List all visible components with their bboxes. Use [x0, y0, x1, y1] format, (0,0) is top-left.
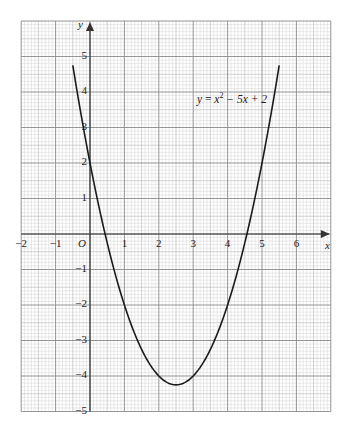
equation-rest: − 5x + 2: [223, 93, 267, 105]
x-tick-label: 4: [225, 237, 231, 249]
graph-chart: −2−1123456−5−4−3−2−112345 x y O y = x2 −…: [0, 0, 349, 435]
y-axis-label: y: [77, 18, 83, 30]
y-tick-label: 1: [82, 191, 88, 203]
equation-eq: =: [202, 93, 214, 105]
y-tick-label: −3: [75, 333, 87, 345]
x-tick-label: 2: [156, 237, 162, 249]
x-tick-label: 5: [259, 237, 265, 249]
y-tick-label: −5: [75, 404, 87, 416]
y-tick-label: 4: [82, 84, 88, 96]
y-tick-label: 5: [82, 49, 88, 61]
x-axis-label: x: [324, 239, 330, 251]
x-tick-label: −2: [15, 237, 27, 249]
x-tick-label: 6: [294, 237, 300, 249]
y-tick-label: 2: [82, 155, 88, 167]
y-tick-label: −4: [75, 368, 87, 380]
x-tick-label: 1: [122, 237, 128, 249]
x-tick-label: 3: [190, 237, 196, 249]
y-tick-label: −2: [75, 297, 87, 309]
x-axis-arrow-icon: [321, 230, 330, 238]
origin-label: O: [78, 237, 86, 249]
equation-label: y = x2 − 5x + 2: [196, 91, 267, 106]
graph-grid: [21, 21, 331, 412]
y-tick-label: −1: [75, 262, 87, 274]
y-axis-arrow-icon: [86, 22, 94, 31]
axes: [21, 22, 330, 412]
x-tick-label: −1: [50, 237, 62, 249]
